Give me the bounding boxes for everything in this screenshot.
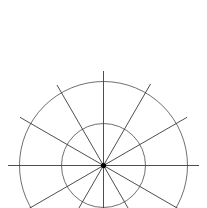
radial-spokes [8,71,199,208]
center-dot [101,163,106,168]
polar-grid-diagram [0,0,207,208]
